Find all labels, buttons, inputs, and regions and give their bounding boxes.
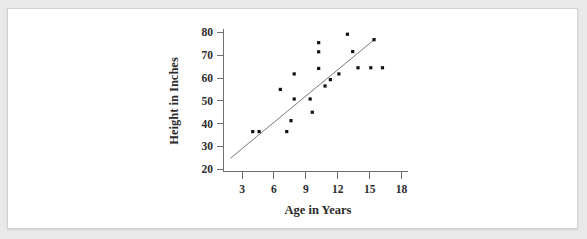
data-point [369, 66, 372, 69]
y-tick-label: 40 [202, 118, 214, 130]
y-tick-label: 30 [202, 140, 214, 152]
scatter-plot-container: 20304050607080 369121518 Age in Years He… [8, 9, 579, 230]
x-tick-label: 12 [332, 183, 344, 195]
y-axis-title: Height in Inches [167, 57, 181, 145]
data-point [356, 66, 359, 69]
x-tick-label: 3 [239, 183, 245, 195]
data-point [346, 33, 349, 36]
data-point [309, 97, 312, 100]
x-axis-title: Age in Years [285, 203, 352, 217]
data-point [351, 50, 354, 53]
scatter-plot-svg: 20304050607080 369121518 Age in Years He… [8, 9, 579, 230]
data-point [251, 130, 254, 133]
y-tick-label: 50 [202, 95, 214, 107]
data-point [317, 41, 320, 44]
data-point [317, 67, 320, 70]
data-point [317, 50, 320, 53]
data-point [285, 130, 288, 133]
trend-line [230, 38, 376, 158]
data-point [289, 119, 292, 122]
data-point [323, 84, 326, 87]
y-tick-group: 20304050607080 [202, 26, 225, 175]
y-tick-label: 60 [202, 72, 214, 84]
figure-card: 20304050607080 369121518 Age in Years He… [7, 8, 578, 229]
data-point [293, 72, 296, 75]
data-point [293, 97, 296, 100]
data-point [381, 66, 384, 69]
x-tick-label: 6 [271, 183, 277, 195]
data-point [279, 88, 282, 91]
data-point [337, 72, 340, 75]
trend-line-group [230, 38, 376, 158]
data-point [372, 38, 375, 41]
data-point [311, 111, 314, 114]
y-tick-label: 70 [202, 49, 214, 61]
x-tick-label: 18 [396, 183, 408, 195]
x-tick-group: 369121518 [239, 172, 407, 196]
data-point [329, 78, 332, 81]
x-tick-label: 9 [303, 183, 309, 195]
data-point [257, 130, 260, 133]
y-tick-label: 80 [202, 26, 214, 38]
x-tick-label: 15 [364, 183, 376, 195]
y-tick-label: 20 [202, 163, 214, 175]
